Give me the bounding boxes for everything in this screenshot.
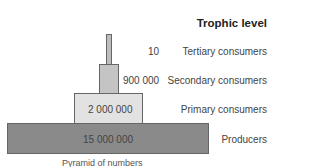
secondary-label: Secondary consumers <box>168 75 268 86</box>
tertiary-bar <box>106 34 112 65</box>
primary-label: Primary consumers <box>181 104 267 115</box>
secondary-count: 900 000 <box>123 75 159 86</box>
secondary-bar <box>99 64 119 94</box>
trophic-level-heading: Trophic level <box>197 17 267 29</box>
tertiary-label: Tertiary consumers <box>183 46 267 57</box>
primary-count: 2 000 000 <box>88 104 133 115</box>
tertiary-count: 10 <box>148 46 159 57</box>
producers-label: Producers <box>221 134 267 145</box>
pyramid-caption: Pyramid of numbers <box>62 158 143 167</box>
producers-count: 15 000 000 <box>83 134 133 145</box>
